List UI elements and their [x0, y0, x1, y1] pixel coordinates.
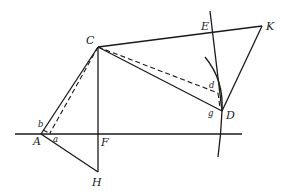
label-a-small: a: [53, 134, 58, 144]
label-f: F: [100, 136, 109, 149]
segment-cd: [98, 47, 222, 111]
label-d: D: [225, 109, 235, 122]
segment-ac: [41, 47, 98, 134]
segment-ed: [210, 11, 222, 111]
label-g: g: [208, 108, 214, 118]
label-c: C: [86, 34, 95, 47]
geometry-diagram: C A F H D E K b a d g: [0, 0, 284, 192]
segment-kd: [222, 26, 262, 111]
segment-ck: [98, 26, 262, 47]
label-a: A: [32, 135, 41, 148]
label-e: E: [200, 20, 209, 33]
dashed-c-to-a: [50, 47, 98, 133]
label-k: K: [265, 20, 275, 33]
label-h: H: [91, 176, 102, 189]
diagram-canvas: C A F H D E K b a d g: [0, 0, 284, 192]
label-b: b: [38, 119, 43, 129]
label-d-small: d: [209, 80, 215, 90]
dashed-c-to-d: [98, 47, 218, 93]
segment-ah: [41, 134, 98, 172]
